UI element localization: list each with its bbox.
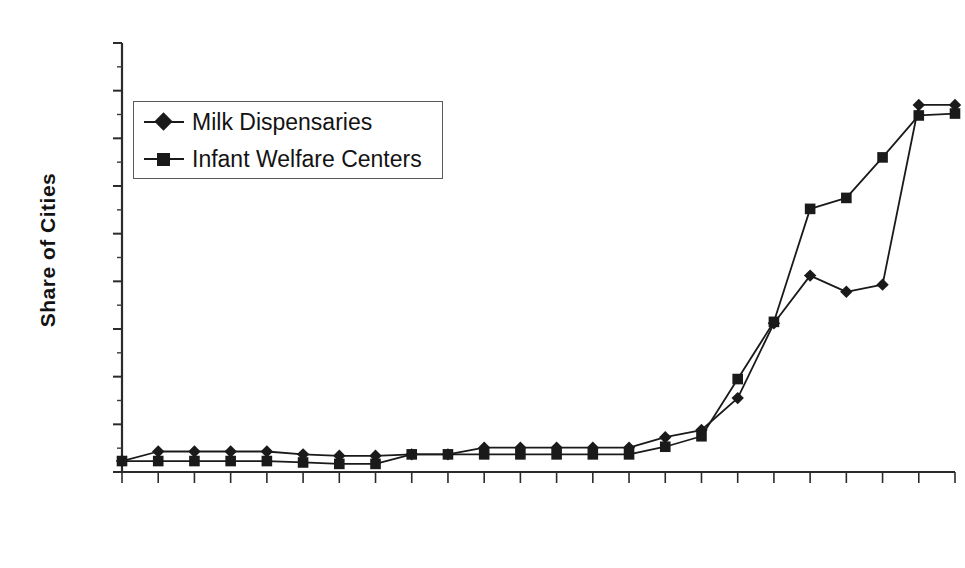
square-marker-icon (370, 459, 381, 470)
square-marker-icon (660, 441, 671, 452)
chart-legend: Milk Dispensaries Infant Welfare Centers (133, 101, 443, 179)
legend-label-milk-dispensaries: Milk Dispensaries (192, 109, 372, 136)
square-marker-icon (624, 449, 635, 460)
square-marker-icon (769, 317, 780, 328)
legend-entry-milk-dispensaries[interactable]: Milk Dispensaries (144, 105, 372, 139)
square-marker-icon (877, 152, 888, 163)
square-marker-icon (262, 456, 273, 467)
square-marker-icon (189, 456, 200, 467)
legend-label-infant-welfare-centers: Infant Welfare Centers (192, 146, 422, 173)
square-marker-icon (334, 459, 345, 470)
square-marker-icon (950, 108, 961, 119)
chart-plot-area (0, 0, 965, 568)
chart-container: Share of Cities Milk Dispensaries Infant… (0, 0, 965, 568)
square-marker-icon (732, 374, 743, 385)
square-marker-icon (588, 449, 599, 460)
square-marker-icon (406, 449, 417, 460)
square-marker-icon (443, 449, 454, 460)
diamond-marker-icon (913, 99, 925, 111)
square-marker-icon (515, 449, 526, 460)
diamond-marker-icon (840, 286, 852, 298)
square-marker-icon (696, 431, 707, 442)
diamond-marker-icon (144, 115, 184, 129)
square-marker-icon (479, 449, 490, 460)
square-marker-icon (913, 110, 924, 121)
square-marker-icon (551, 449, 562, 460)
square-marker-icon (117, 456, 128, 467)
square-marker-icon (225, 456, 236, 467)
square-marker-icon (841, 193, 852, 204)
square-marker-icon (153, 456, 164, 467)
square-marker-icon (298, 457, 309, 468)
square-marker-icon (144, 152, 184, 166)
square-marker-icon (805, 204, 816, 215)
legend-entry-infant-welfare-centers[interactable]: Infant Welfare Centers (144, 142, 422, 176)
diamond-marker-icon (876, 278, 888, 290)
